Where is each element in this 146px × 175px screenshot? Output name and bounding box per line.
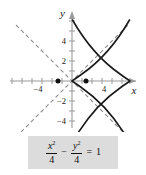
- minus-operator: −: [61, 147, 67, 157]
- y-tick-label-neg4: −4: [57, 116, 67, 126]
- equation-box: x2 4 − y2 4 = 1: [28, 136, 118, 169]
- focus-left-dot: [56, 79, 61, 84]
- exponent-x: 2: [52, 140, 55, 146]
- x-tick-label-4: 4: [102, 84, 107, 94]
- y-axis-label: y: [59, 7, 65, 19]
- fraction-numerator-x: x2: [46, 140, 57, 152]
- y-axis-arrowhead: [69, 11, 75, 19]
- y-tick-label-neg2: −2: [57, 96, 66, 106]
- x-axis-label: x: [131, 84, 137, 96]
- plot-svg: −4 4 4 2 −2 −4 y x: [0, 0, 146, 132]
- hyperbola-right-branch: [73, 20, 131, 132]
- axes-group: [10, 11, 136, 128]
- equation-expression: x2 4 − y2 4 = 1: [45, 140, 101, 164]
- focus-right-dot: [84, 79, 89, 84]
- x-tick-label-neg4: −4: [33, 84, 43, 94]
- y-tick-label-2: 2: [62, 56, 66, 66]
- coordinate-plot: −4 4 4 2 −2 −4 y x: [0, 0, 146, 132]
- fraction-denominator-x: 4: [47, 154, 56, 165]
- hyperbola-figure: −4 4 4 2 −2 −4 y x x2 4 − y2 4 = 1: [0, 0, 146, 175]
- fraction-numerator-y: y2: [71, 140, 82, 152]
- fraction-y-squared-over-4: y2 4: [71, 140, 82, 164]
- exponent-y: 2: [77, 140, 80, 146]
- hyperbola-curves: [72, 20, 130, 132]
- fraction-x-squared-over-4: x2 4: [46, 140, 57, 164]
- equals-sign: =: [86, 147, 92, 157]
- hyperbola-left-branch: [72, 20, 130, 132]
- equation-right-side: 1: [96, 147, 101, 157]
- fraction-denominator-y: 4: [72, 154, 81, 165]
- y-tick-label-4: 4: [62, 36, 67, 46]
